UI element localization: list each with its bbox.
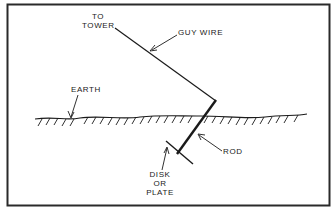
leader-lines [68,35,222,170]
disk-plate [166,141,193,164]
label-earth: EARTH [71,85,101,94]
label-disk-line2: OR [145,179,175,188]
label-to-tower: TO TOWER [82,12,114,30]
guy-wire-anchor-diagram: TO TOWER GUY WIRE EARTH ROD DISK OR PLAT… [0,0,333,210]
label-disk-or-plate: DISK OR PLATE [145,170,175,197]
guy-wire-leader [152,35,177,50]
rod-leader [199,135,222,151]
anchor-rod [177,100,216,154]
label-to-tower-line1: TO [82,12,114,21]
earth-surface [35,114,307,119]
label-rod: ROD [223,147,243,156]
label-disk-line1: DISK [145,170,175,179]
earth-hatching [38,115,298,126]
label-disk-line3: PLATE [145,188,175,197]
label-to-tower-line2: TOWER [82,21,114,30]
earth-arrowhead [68,111,74,118]
label-guy-wire: GUY WIRE [178,28,223,37]
earth-leader [71,95,78,117]
guy-wire [115,28,216,101]
